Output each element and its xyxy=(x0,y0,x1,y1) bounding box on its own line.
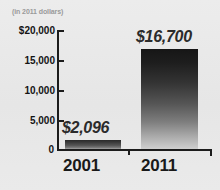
y-axis-label-text: $20,000 xyxy=(0,25,55,36)
x-axis-end-tick xyxy=(210,151,212,156)
y-tick-mark-15000 xyxy=(59,60,64,62)
bar-chart: (in 2011 dollars) $20,000 15,000 10,000 … xyxy=(0,0,220,190)
y-axis-label-text: 10,000 xyxy=(0,85,55,96)
y-axis-label-10000: 10,000 xyxy=(0,85,55,97)
y-axis-label-text: 15,000 xyxy=(0,55,55,66)
bar-value-label-2011: $16,700 xyxy=(136,28,192,46)
x-axis-category-2001: 2001 xyxy=(63,156,100,176)
y-axis-label-15000: 15,000 xyxy=(0,55,55,67)
x-axis-mid-tick xyxy=(128,151,130,155)
y-axis-label-5000: 5,000 xyxy=(0,115,55,127)
y-axis-label-20000: $20,000 xyxy=(0,25,55,37)
y-tick-mark-20000 xyxy=(59,30,64,32)
bar-2011 xyxy=(141,49,198,149)
y-axis-label-0: 0 xyxy=(0,144,54,156)
x-axis-category-2011: 2011 xyxy=(141,156,177,176)
bar-value-label-2001: $2,096 xyxy=(62,119,109,137)
y-tick-mark-10000 xyxy=(59,90,64,92)
bar-2001 xyxy=(65,140,121,149)
chart-caption: (in 2011 dollars) xyxy=(12,8,63,15)
y-axis-label-text: 0 xyxy=(0,144,54,155)
y-axis-label-text: 5,000 xyxy=(0,115,55,126)
x-axis-line xyxy=(57,149,212,151)
